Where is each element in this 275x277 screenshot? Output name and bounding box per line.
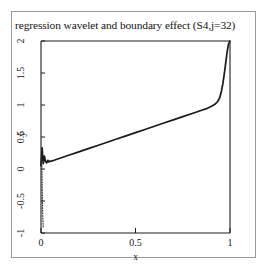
y-tick-label: 2 — [14, 28, 28, 54]
x-axis-title: x — [121, 252, 151, 262]
data-series-group — [41, 41, 230, 228]
data-series-path-0 — [41, 41, 230, 165]
y-axis-title: ŷ — [15, 126, 29, 142]
x-tick-label: 1 — [215, 237, 245, 248]
y-tick-label: 0 — [14, 156, 28, 182]
plot-canvas — [0, 0, 275, 277]
x-tick-label: 0.5 — [121, 237, 151, 248]
y-tick-label: -0.5 — [14, 188, 28, 214]
axes-group — [41, 41, 230, 233]
y-tick-label: 1 — [14, 92, 28, 118]
figure-container: regression wavelet and boundary effect (… — [0, 0, 275, 277]
y-tick-label: 1.5 — [14, 60, 28, 86]
x-tick-label: 0 — [26, 237, 56, 248]
